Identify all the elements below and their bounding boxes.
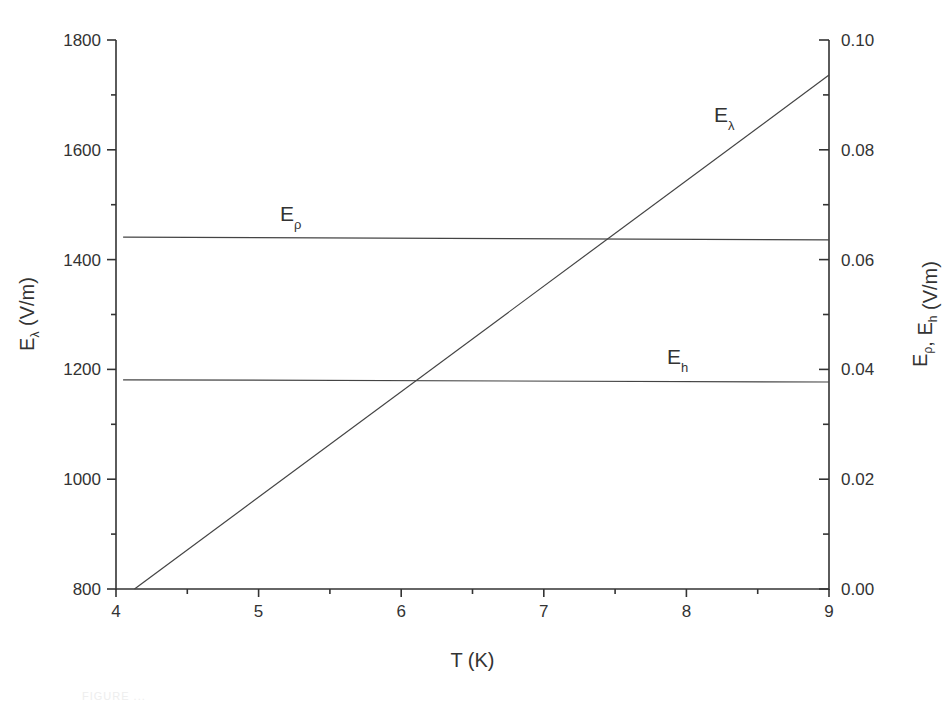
right-tick-label: 0.06	[841, 251, 874, 270]
axes: 456789800100012001400160018000.000.020.0…	[63, 31, 874, 621]
x-tick-label: 6	[396, 602, 405, 621]
right-tick-label: 0.10	[841, 31, 874, 50]
x-tick-label: 7	[539, 602, 548, 621]
right-tick-label: 0.02	[841, 470, 874, 489]
series-label-ρ: Eρ	[280, 202, 301, 232]
x-tick-label: 8	[682, 602, 691, 621]
left-tick-label: 1800	[63, 31, 101, 50]
caption-fragment: FIGURE ...	[82, 690, 146, 701]
left-tick-label: 1600	[63, 141, 101, 160]
left-tick-label: 800	[73, 580, 101, 599]
chart: 456789800100012001400160018000.000.020.0…	[0, 0, 951, 701]
labels: T (K)Eλ (V/m)Eρ, Eh (V/m)EλEρEh	[16, 103, 941, 671]
series-line-ρ	[123, 237, 829, 240]
left-tick-label: 1400	[63, 251, 101, 270]
left-tick-label: 1000	[63, 470, 101, 489]
series-line-λ	[135, 75, 830, 589]
left-axis-title: Eλ (V/m)	[16, 277, 42, 351]
series-label-h: Eh	[667, 345, 688, 375]
series-lines	[123, 75, 829, 589]
right-tick-label: 0.04	[841, 360, 874, 379]
x-tick-label: 9	[824, 602, 833, 621]
left-tick-label: 1200	[63, 360, 101, 379]
x-tick-label: 5	[254, 602, 263, 621]
right-tick-label: 0.08	[841, 141, 874, 160]
x-axis-title: T (K)	[450, 649, 494, 671]
x-tick-label: 4	[111, 602, 120, 621]
right-axis-title: Eρ, Eh (V/m)	[909, 261, 941, 367]
right-tick-label: 0.00	[841, 580, 874, 599]
series-label-λ: Eλ	[714, 103, 735, 133]
series-line-h	[123, 380, 829, 382]
